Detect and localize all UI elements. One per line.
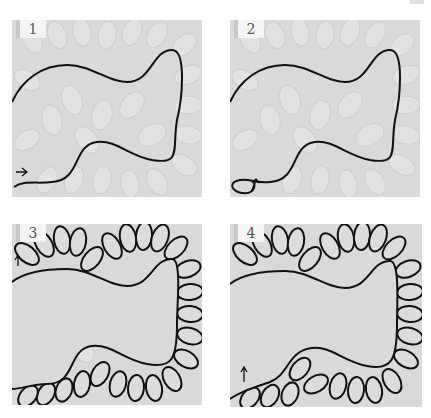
step-number-badge: 1 xyxy=(16,20,46,38)
corner-mark xyxy=(410,0,424,4)
step-panel-1: 1 xyxy=(12,20,202,197)
step-panel-4: 4 xyxy=(230,224,422,407)
feather-diagram xyxy=(12,224,202,405)
step-panel-3: 3 xyxy=(12,224,202,405)
step-number-badge: 2 xyxy=(234,20,264,38)
step-panel-2: 2 xyxy=(230,20,420,197)
feather-background-pattern xyxy=(12,20,202,197)
feather-diagram xyxy=(230,224,422,407)
start-arrow-icon xyxy=(16,168,27,176)
step-number-badge: 3 xyxy=(16,224,46,242)
step-number-badge: 4 xyxy=(234,224,264,242)
feather-background-pattern xyxy=(230,20,420,197)
